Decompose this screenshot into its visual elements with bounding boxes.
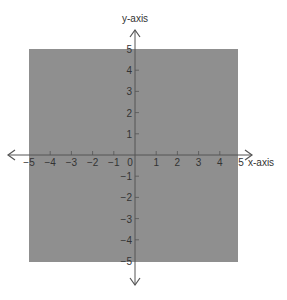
x-tick-label: −3 bbox=[66, 157, 78, 168]
x-tick-label: 2 bbox=[175, 157, 181, 168]
y-tick-label: 2 bbox=[126, 108, 132, 119]
y-tick-label: 4 bbox=[126, 65, 132, 76]
x-tick-label: −1 bbox=[108, 157, 120, 168]
y-tick-label: −1 bbox=[121, 171, 133, 182]
x-tick-label: −2 bbox=[87, 157, 99, 168]
y-tick-label: −4 bbox=[121, 235, 133, 246]
coordinate-plane: −5−4−3−2−1012345−5−4−3−2−112345y-axisx-a… bbox=[0, 0, 287, 300]
x-tick-label: 5 bbox=[238, 157, 244, 168]
y-tick-label: 3 bbox=[126, 86, 132, 97]
y-tick-label: −3 bbox=[121, 214, 133, 225]
x-tick-label: 3 bbox=[196, 157, 202, 168]
x-tick-label: 0 bbox=[127, 157, 133, 168]
x-tick-label: 4 bbox=[217, 157, 223, 168]
x-tick-label: −5 bbox=[23, 157, 35, 168]
y-tick-label: −2 bbox=[121, 192, 133, 203]
y-axis-label: y-axis bbox=[122, 13, 148, 24]
x-tick-label: −4 bbox=[44, 157, 56, 168]
y-tick-label: −5 bbox=[121, 256, 133, 267]
x-tick-label: 1 bbox=[153, 157, 159, 168]
x-axis-label: x-axis bbox=[248, 157, 274, 168]
y-tick-label: 5 bbox=[126, 44, 132, 55]
y-tick-label: 1 bbox=[126, 129, 132, 140]
